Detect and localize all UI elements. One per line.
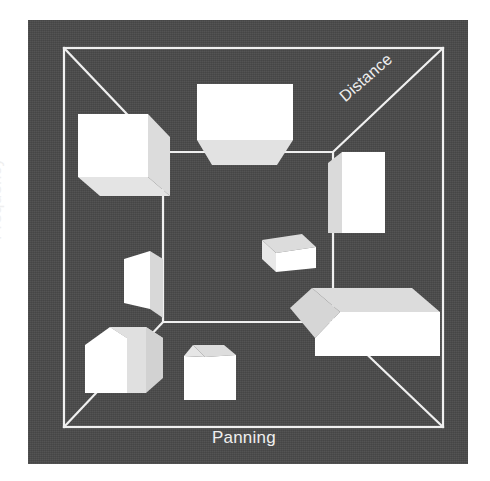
- box-center-small-slab: [262, 234, 316, 272]
- box-top-left-cube: [78, 114, 170, 196]
- box-right-tall: [328, 152, 385, 233]
- panning-axis-label: Panning: [212, 428, 276, 448]
- frequency-axis-label: Frequency: [0, 158, 6, 240]
- box-bottom-left-cube: [85, 327, 163, 393]
- perspective-room-graphic: [0, 0, 490, 481]
- box-top-left-cube-front: [78, 114, 148, 177]
- box-bottom-right-large-front: [315, 312, 440, 356]
- box-top-center: [197, 84, 293, 165]
- box-top-center-shade: [197, 140, 293, 165]
- box-right-tall-front: [342, 152, 385, 233]
- box-bottom-right-large: [290, 288, 440, 356]
- box-bottom-center-cube-front: [184, 355, 236, 400]
- box-right-tall-left: [328, 152, 342, 233]
- box-mid-left-slab-right: [150, 251, 163, 318]
- box-mid-left-slab: [124, 251, 163, 318]
- box-bottom-center-cube: [184, 345, 236, 400]
- box-top-center-front: [197, 84, 293, 140]
- box-bottom-left-cube-right: [146, 327, 163, 393]
- box-bottom-left-cube-front: [85, 327, 127, 393]
- perspective-box-figure: Frequency Panning Distance: [0, 0, 490, 481]
- box-mid-left-slab-front: [124, 251, 150, 309]
